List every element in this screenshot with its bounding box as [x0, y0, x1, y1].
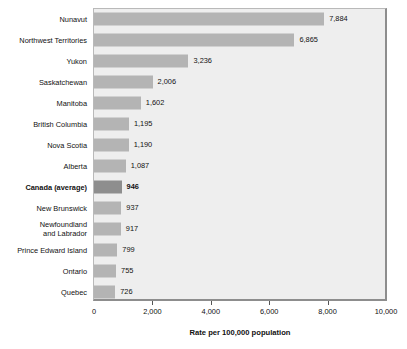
bar-row: Nova Scotia1,190: [0, 134, 407, 155]
bar-row: Ontario755: [0, 260, 407, 281]
x-axis-tick-mark: [269, 301, 270, 305]
bar-value-label: 6,865: [294, 35, 318, 44]
bar-track: 755: [94, 264, 386, 277]
bar: [94, 180, 122, 193]
x-axis-tick-label: 0: [92, 307, 96, 316]
bar-track: 946: [94, 180, 386, 193]
bar-row: Canada (average)946: [0, 176, 407, 197]
bar-category-label: Yukon: [0, 56, 87, 65]
bar-row: Alberta1,087: [0, 155, 407, 176]
bar-chart: Nunavut7,884Northwest Territories6,865Yu…: [0, 0, 407, 349]
bar-track: 7,884: [94, 12, 386, 25]
x-axis-tick-label: 6,000: [260, 307, 279, 316]
bar-category-label: Prince Edward Island: [0, 245, 87, 254]
bar-category-label: Northwest Territories: [0, 35, 87, 44]
bar: [94, 138, 129, 151]
bar-category-label: Alberta: [0, 161, 87, 170]
bar-row: Manitoba1,602: [0, 92, 407, 113]
x-axis-tick-mark: [152, 301, 153, 305]
bar-category-label: Nova Scotia: [0, 140, 87, 149]
bar-track: 1,195: [94, 117, 386, 130]
bar: [94, 285, 115, 298]
bar-category-label: Quebec: [0, 287, 87, 296]
bar-row: British Columbia1,195: [0, 113, 407, 134]
bar-track: 2,006: [94, 75, 386, 88]
bar: [94, 222, 121, 235]
bar: [94, 33, 294, 46]
bar-value-label: 1,190: [129, 140, 153, 149]
bar-value-label: 799: [117, 245, 134, 254]
bar-category-label: Manitoba: [0, 98, 87, 107]
x-axis-tick-mark: [211, 301, 212, 305]
bar-value-label: 946: [122, 182, 139, 191]
x-axis-tick-label: 4,000: [202, 307, 221, 316]
bar-row: Newfoundland and Labrador917: [0, 218, 407, 239]
bar: [94, 12, 324, 25]
bar-track: 1,190: [94, 138, 386, 151]
bar-track: 1,087: [94, 159, 386, 172]
bar-category-label: Ontario: [0, 266, 87, 275]
bar-value-label: 726: [115, 287, 132, 296]
bar-value-label: 1,602: [141, 98, 165, 107]
bar-track: 3,236: [94, 54, 386, 67]
bar-track: 937: [94, 201, 386, 214]
bar-track: 799: [94, 243, 386, 256]
x-axis-tick-label: 8,000: [318, 307, 337, 316]
bar-track: 726: [94, 285, 386, 298]
bar: [94, 243, 117, 256]
bar-value-label: 937: [121, 203, 138, 212]
bar-track: 6,865: [94, 33, 386, 46]
bar-value-label: 1,087: [126, 161, 150, 170]
bar-category-label: Canada (average): [0, 182, 87, 191]
bar-value-label: 1,195: [129, 119, 153, 128]
bar-track: 917: [94, 222, 386, 235]
bar-value-label: 3,236: [188, 56, 212, 65]
bar-row: Prince Edward Island799: [0, 239, 407, 260]
bar-rows: Nunavut7,884Northwest Territories6,865Yu…: [0, 8, 407, 302]
x-axis-tick-mark: [328, 301, 329, 305]
bar: [94, 75, 153, 88]
x-axis-tick-label: 2,000: [143, 307, 162, 316]
x-axis: 02,0004,0006,0008,00010,000: [93, 301, 387, 321]
bar-category-label: New Brunswick: [0, 203, 87, 212]
bar-value-label: 7,884: [324, 14, 348, 23]
bar: [94, 117, 129, 130]
bar: [94, 96, 141, 109]
bar-row: Nunavut7,884: [0, 8, 407, 29]
bar-row: Saskatchewan2,006: [0, 71, 407, 92]
bar: [94, 159, 126, 172]
bar-track: 1,602: [94, 96, 386, 109]
bar: [94, 264, 116, 277]
bar-row: Northwest Territories6,865: [0, 29, 407, 50]
bar-category-label: British Columbia: [0, 119, 87, 128]
bar: [94, 201, 121, 214]
bar: [94, 54, 188, 67]
bar-category-label: Saskatchewan: [0, 77, 87, 86]
x-axis-title: Rate per 100,000 population: [93, 328, 387, 337]
bar-category-label: Nunavut: [0, 14, 87, 23]
bar-row: Quebec726: [0, 281, 407, 302]
bar-value-label: 755: [116, 266, 133, 275]
bar-value-label: 917: [121, 224, 138, 233]
x-axis-tick-label: 10,000: [375, 307, 398, 316]
bar-row: Yukon3,236: [0, 50, 407, 71]
bar-row: New Brunswick937: [0, 197, 407, 218]
bar-value-label: 2,006: [153, 77, 177, 86]
bar-category-label: Newfoundland and Labrador: [0, 220, 87, 238]
